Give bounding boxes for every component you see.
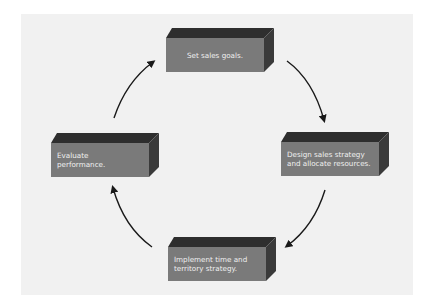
step-design-sales-strategy: Design sales strategy and allocate resou… (281, 142, 379, 176)
step-label-line: Design sales strategy (287, 150, 371, 159)
step-label-line: performance. (57, 160, 105, 169)
box-top-face (51, 133, 159, 143)
arrow-design-to-implement (287, 190, 325, 246)
step-label-line: Implement time and (174, 255, 247, 264)
step-label-line: Evaluate (57, 151, 105, 160)
step-set-sales-goals: Set sales goals. (166, 38, 264, 72)
box-top-face (168, 237, 276, 247)
step-label: Implement time and territory strategy. (168, 247, 266, 281)
box-top-face (281, 132, 389, 142)
step-evaluate-performance: Evaluate performance. (51, 143, 149, 177)
step-label-line: territory strategy. (174, 264, 247, 273)
step-label: Set sales goals. (166, 38, 264, 72)
step-label-line: and allocate resources. (287, 159, 371, 168)
arrow-goals-to-design (287, 61, 324, 120)
arrow-evaluate-to-goals (114, 62, 153, 118)
step-label: Design sales strategy and allocate resou… (281, 142, 379, 176)
step-implement-strategy: Implement time and territory strategy. (168, 247, 266, 281)
box-top-face (166, 28, 274, 38)
step-label: Evaluate performance. (51, 143, 149, 177)
arrow-implement-to-evaluate (113, 188, 152, 247)
